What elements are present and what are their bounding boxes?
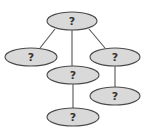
node-root: ? — [47, 12, 97, 30]
node-bottom-label: ? — [70, 111, 76, 124]
node-right-child: ? — [90, 87, 140, 105]
node-middle-label: ? — [70, 69, 76, 82]
edge-root-left — [40, 29, 55, 48]
node-right-label: ? — [112, 51, 118, 64]
node-middle: ? — [47, 66, 99, 84]
node-right-child-label: ? — [112, 90, 118, 103]
node-root-label: ? — [69, 15, 75, 28]
edge-root-right — [89, 29, 105, 48]
node-right: ? — [90, 48, 140, 66]
tree-diagram: ? ? ? ? ? ? — [0, 0, 150, 140]
node-left-label: ? — [28, 51, 34, 64]
node-left: ? — [5, 48, 57, 66]
node-bottom: ? — [47, 108, 99, 126]
